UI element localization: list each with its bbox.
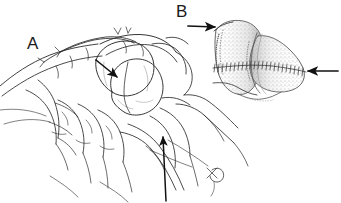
figure-canvas: A B bbox=[0, 0, 341, 203]
arrow-to-specimen-cleft bbox=[96, 60, 117, 77]
illustration-svg bbox=[0, 0, 341, 203]
panel-label-a: A bbox=[27, 35, 39, 52]
panel-a-drawing bbox=[0, 27, 248, 202]
suture-needle bbox=[207, 168, 224, 196]
panel-b-drawing bbox=[188, 20, 338, 101]
panel-label-b: B bbox=[176, 3, 188, 20]
arrow-left-pointing-right bbox=[188, 26, 215, 27]
